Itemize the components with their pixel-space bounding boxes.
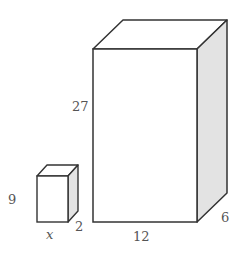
small-box-width-label: x <box>46 227 54 242</box>
large-box-depth-label: 6 <box>221 210 229 225</box>
large-box-side-face <box>197 20 227 222</box>
small-box-height-label: 9 <box>8 192 16 207</box>
small-box-front-face <box>37 176 68 222</box>
large-box-width-label: 12 <box>133 229 150 244</box>
large-box <box>93 20 227 222</box>
small-box <box>37 165 78 222</box>
large-box-height-label: 27 <box>72 99 89 114</box>
large-box-front-face <box>93 49 197 222</box>
prisms-diagram: 9 x 2 27 12 6 <box>0 0 242 255</box>
small-box-side-face <box>68 165 78 222</box>
small-box-depth-label: 2 <box>75 219 83 234</box>
